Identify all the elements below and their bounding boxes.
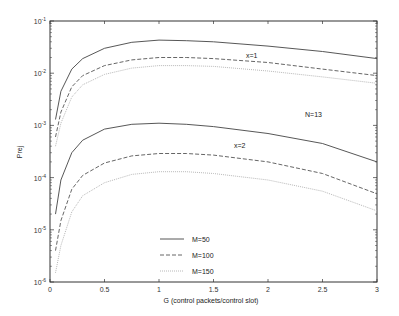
series-lines bbox=[56, 40, 378, 273]
series-x1-m100 bbox=[56, 58, 378, 138]
annotation-x2: x=2 bbox=[234, 142, 246, 149]
annotation-n13: N=13 bbox=[305, 111, 322, 118]
x-tick-label: 3 bbox=[375, 286, 379, 293]
plot-frame bbox=[50, 21, 377, 282]
series-x2-m50 bbox=[56, 123, 378, 214]
y-tick-label: 10-3 bbox=[34, 120, 46, 129]
legend-label: M=50 bbox=[192, 236, 210, 243]
x-tick-label: 0 bbox=[48, 286, 52, 293]
x-tick-label: 0.5 bbox=[100, 286, 110, 293]
y-tick-label: 10-1 bbox=[34, 16, 46, 25]
annotation-x1: x=1 bbox=[246, 52, 258, 59]
y-tick-label: 10-4 bbox=[34, 173, 46, 182]
plot-border bbox=[50, 21, 377, 282]
series-x2-m100 bbox=[56, 154, 378, 251]
x-axis-label: G (control packets/control slot) bbox=[164, 297, 259, 305]
legend: M=50M=100M=150 bbox=[160, 236, 214, 275]
series-x2-m150 bbox=[56, 172, 378, 273]
legend-label: M=150 bbox=[192, 268, 214, 275]
y-tick-label: 10-6 bbox=[34, 277, 46, 286]
legend-label: M=100 bbox=[192, 252, 214, 259]
chart: 00.511.522.5310-610-510-410-310-210-1 x=… bbox=[0, 0, 399, 316]
y-axis-label: Prej bbox=[16, 145, 24, 158]
x-tick-label: 1 bbox=[157, 286, 161, 293]
y-tick-label: 10-5 bbox=[34, 225, 46, 234]
y-tick-label: 10-2 bbox=[34, 68, 46, 77]
x-tick-label: 2 bbox=[266, 286, 270, 293]
x-tick-label: 2.5 bbox=[318, 286, 328, 293]
series-x1-m50 bbox=[56, 40, 378, 119]
x-tick-label: 1.5 bbox=[209, 286, 219, 293]
series-x1-m150 bbox=[56, 66, 378, 147]
